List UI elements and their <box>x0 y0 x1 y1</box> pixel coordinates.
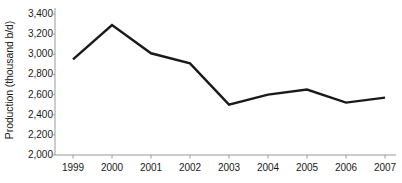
x-axis-tick-label: 2001 <box>131 163 171 173</box>
x-axis-tick-label: 2002 <box>170 163 210 173</box>
x-axis-tick-label: 2007 <box>365 163 402 173</box>
x-axis-tick-label: 1999 <box>53 163 93 173</box>
line-chart: Production (thousand b/d) 2,0002,2002,40… <box>0 0 402 183</box>
x-axis-tick-labels: 199920002001200220032004200520062007 <box>0 0 402 183</box>
x-axis-tick-label: 2000 <box>92 163 132 173</box>
x-axis-tick-label: 2003 <box>209 163 249 173</box>
x-axis-tick-label: 2004 <box>248 163 288 173</box>
x-axis-tick-label: 2005 <box>287 163 327 173</box>
x-axis-tick-label: 2006 <box>326 163 366 173</box>
